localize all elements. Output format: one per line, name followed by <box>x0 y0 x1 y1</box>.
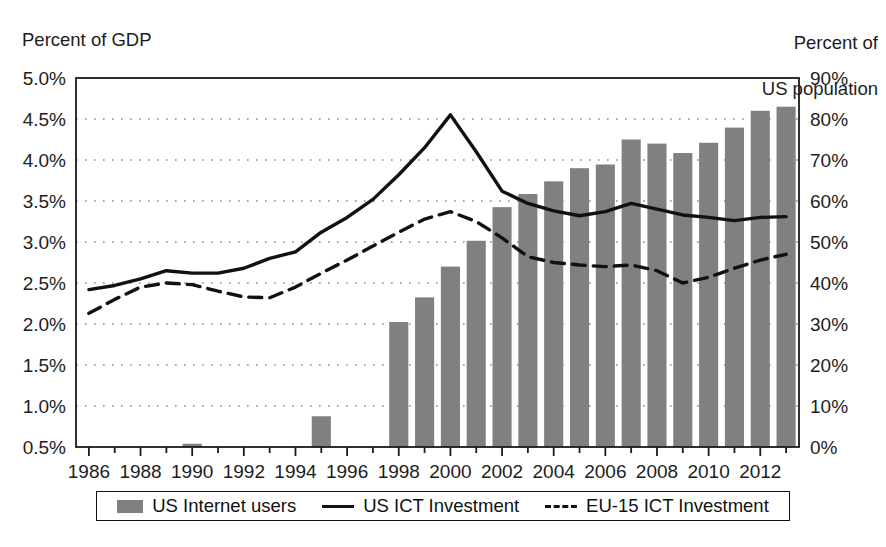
y-axis-left-tick-label: 2.5% <box>23 273 66 294</box>
x-axis-tick-label: 1994 <box>274 461 317 482</box>
legend-item-label: US ICT Investment <box>363 495 519 517</box>
legend-item: US Internet users <box>117 495 296 517</box>
x-axis-tick-label: 2010 <box>687 461 729 482</box>
chart-legend: US Internet usersUS ICT InvestmentEU-15 … <box>96 491 790 521</box>
x-axis-tick-label: 2006 <box>584 461 626 482</box>
chart-figure: Percent of GDP Percent of US population … <box>0 0 886 547</box>
bar <box>725 128 744 447</box>
x-axis-tick-label: 1986 <box>68 461 110 482</box>
y-axis-left-tick-label: 0.5% <box>23 437 66 458</box>
x-axis-tick-label: 2002 <box>481 461 523 482</box>
legend-item-label: US Internet users <box>152 495 296 517</box>
y-axis-left-tick-label: 2.0% <box>23 314 66 335</box>
bar <box>312 416 331 447</box>
y-axis-left-tick-label: 3.5% <box>23 191 66 212</box>
bar <box>544 181 563 447</box>
y-axis-right-tick-label: 30% <box>810 314 848 335</box>
y-axis-right-tick-label: 70% <box>810 150 848 171</box>
x-axis-tick-label: 2000 <box>429 461 471 482</box>
x-axis-tick-label: 2004 <box>533 461 576 482</box>
y-axis-right-tick-label: 10% <box>810 396 848 417</box>
x-axis-tick-label: 1996 <box>326 461 368 482</box>
x-tick-marks <box>89 447 786 456</box>
y-axis-left-tick-label: 1.5% <box>23 355 66 376</box>
y-axis-left-tick-label: 4.0% <box>23 150 66 171</box>
bar <box>777 107 796 447</box>
x-axis-tick-label: 1998 <box>378 461 420 482</box>
legend-dashed-line-icon <box>545 505 577 508</box>
y-axis-right-tick-label: 0% <box>810 437 838 458</box>
x-axis-labels: 1986198819901992199419961998200020022004… <box>68 461 782 482</box>
x-axis-tick-label: 1988 <box>119 461 161 482</box>
bar <box>389 322 408 447</box>
legend-item: US ICT Investment <box>322 495 519 517</box>
legend-bar-swatch-icon <box>117 500 143 513</box>
bar <box>570 168 589 447</box>
bar <box>596 165 615 447</box>
legend-item: EU-15 ICT Investment <box>545 495 769 517</box>
legend-solid-line-icon <box>322 505 354 508</box>
bar <box>622 140 641 448</box>
x-axis-tick-label: 2012 <box>739 461 781 482</box>
bar <box>518 194 537 447</box>
bar <box>699 143 718 447</box>
bar <box>647 144 666 447</box>
bar <box>751 111 770 447</box>
x-axis-tick-label: 2008 <box>636 461 678 482</box>
bar <box>493 207 512 447</box>
y-axis-left-tick-label: 1.0% <box>23 396 66 417</box>
legend-item-label: EU-15 ICT Investment <box>586 495 769 517</box>
y-axis-right-labels: 0%10%20%30%40%50%60%70%80%90% <box>810 68 848 458</box>
x-axis-tick-label: 1992 <box>223 461 265 482</box>
y-axis-left-tick-label: 4.5% <box>23 109 66 130</box>
y-axis-right-tick-label: 20% <box>810 355 848 376</box>
y-axis-right-tick-label: 60% <box>810 191 848 212</box>
y-axis-right-tick-label: 40% <box>810 273 848 294</box>
bar <box>441 267 460 447</box>
bar <box>673 153 692 447</box>
x-axis-tick-label: 1990 <box>171 461 213 482</box>
bar <box>467 241 486 447</box>
y-axis-left-tick-label: 5.0% <box>23 68 66 89</box>
y-axis-right-tick-label: 80% <box>810 109 848 130</box>
y-axis-left-labels: 0.5%1.0%1.5%2.0%2.5%3.0%3.5%4.0%4.5%5.0% <box>23 68 66 458</box>
y-axis-right-tick-label: 50% <box>810 232 848 253</box>
y-axis-right-tick-label: 90% <box>810 68 848 89</box>
chart-svg: 0.5%1.0%1.5%2.0%2.5%3.0%3.5%4.0%4.5%5.0%… <box>0 0 886 547</box>
bar <box>415 297 434 447</box>
plot-area: 0.5%1.0%1.5%2.0%2.5%3.0%3.5%4.0%4.5%5.0%… <box>0 0 886 547</box>
y-axis-left-tick-label: 3.0% <box>23 232 66 253</box>
